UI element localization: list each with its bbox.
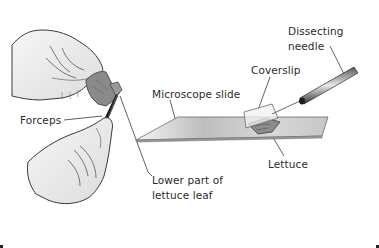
- label-microscope-slide: Microscope slide: [152, 88, 240, 100]
- diagram-canvas: Dissecting needle Coverslip Microscope s…: [0, 0, 379, 248]
- label-forceps: Forceps: [20, 114, 61, 126]
- label-coverslip: Coverslip: [251, 64, 301, 76]
- label-lower-part-line2: lettuce leaf: [152, 189, 213, 201]
- label-dissecting-needle-line1: Dissecting: [288, 25, 344, 37]
- needle-leader-line: [330, 46, 344, 74]
- label-dissecting-needle-line2: needle: [288, 40, 324, 52]
- lower-hand: [27, 118, 112, 204]
- microscope-slide: [136, 117, 328, 142]
- label-lettuce: Lettuce: [268, 158, 308, 170]
- label-lower-part-line1: Lower part of: [152, 174, 223, 186]
- lettuce-leaf-piece: [86, 71, 122, 106]
- forceps-leader-line: [64, 116, 102, 120]
